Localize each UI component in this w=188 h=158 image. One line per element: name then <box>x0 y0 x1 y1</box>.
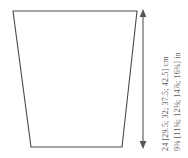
arrowhead-up-icon <box>140 9 147 17</box>
dimension-label-group: 24 [29.5; 32; 37.5; 42.5] cm 9⅜ [11⅝; 12… <box>148 0 188 158</box>
arrowhead-down-icon <box>140 141 147 149</box>
diagram-canvas: 24 [29.5; 32; 37.5; 42.5] cm 9⅜ [11⅝; 12… <box>0 0 188 158</box>
dimension-label-cm: 24 [29.5; 32; 37.5; 42.5] cm <box>161 56 170 151</box>
dimension-label-inches: 9⅜ [11⅝; 12⅝; 14⅞; 16¾] in <box>173 52 182 151</box>
vessel-outline-shape <box>13 11 137 147</box>
